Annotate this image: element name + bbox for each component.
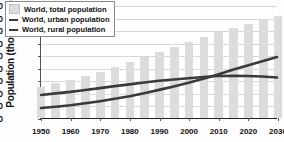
legend-swatch-line-icon [9, 29, 18, 31]
y-axis-tick-label: 6.0 [0, 39, 3, 49]
x-axis-tick-label: 1980 [117, 127, 143, 136]
line-series-urban [41, 57, 277, 108]
line-series-rural [41, 76, 277, 95]
y-axis-tick-label: 9.0 [0, 1, 3, 11]
x-axis-tick-label: 1990 [147, 127, 173, 136]
chart-legend: World, total populationWorld, urban popu… [5, 1, 115, 37]
x-axis-tick-mark [71, 118, 72, 121]
x-axis-tick-label: 2030 [265, 127, 284, 136]
y-axis-tick-label: 5.0 [0, 51, 3, 61]
legend-item: World, rural population [9, 24, 110, 34]
legend-item: World, urban population [9, 14, 110, 24]
y-axis-tick-label: 8.0 [0, 14, 3, 24]
legend-swatch-line-icon [9, 19, 18, 21]
y-axis-tick-label: 1.0 [0, 101, 3, 111]
x-axis-tick-label: 1950 [28, 127, 54, 136]
x-axis-tick-mark [130, 118, 131, 121]
x-axis-tick-mark [219, 118, 220, 121]
legend-item-label: World, total population [24, 5, 107, 14]
x-axis-tick-mark [248, 118, 249, 121]
x-axis-tick-mark [160, 118, 161, 121]
y-axis-tick-label: 3.0 [0, 76, 3, 86]
x-axis-tick-label: 2010 [206, 127, 232, 136]
x-axis-tick-mark [278, 118, 279, 121]
x-axis-tick-label: 1970 [87, 127, 113, 136]
y-axis-tick-label: 0.0 [0, 114, 3, 124]
legend-item: World, total population [9, 4, 110, 14]
x-axis-tick-mark [100, 118, 101, 121]
x-axis-tick-mark [41, 118, 42, 121]
x-axis-tick-label: 1960 [58, 127, 84, 136]
x-axis-tick-label: 2000 [176, 127, 202, 136]
y-axis-tick-label: 2.0 [0, 89, 3, 99]
legend-item-label: World, urban population [22, 15, 110, 24]
y-axis-tick-label: 7.0 [0, 26, 3, 36]
population-chart: Population (thousands) 0.01.02.03.04.05.… [0, 0, 284, 142]
x-axis-tick-label: 2020 [235, 127, 261, 136]
legend-swatch-box-icon [9, 4, 20, 14]
legend-item-label: World, rural population [22, 25, 105, 34]
y-axis-tick-label: 4.0 [0, 64, 3, 74]
x-axis-tick-mark [189, 118, 190, 121]
